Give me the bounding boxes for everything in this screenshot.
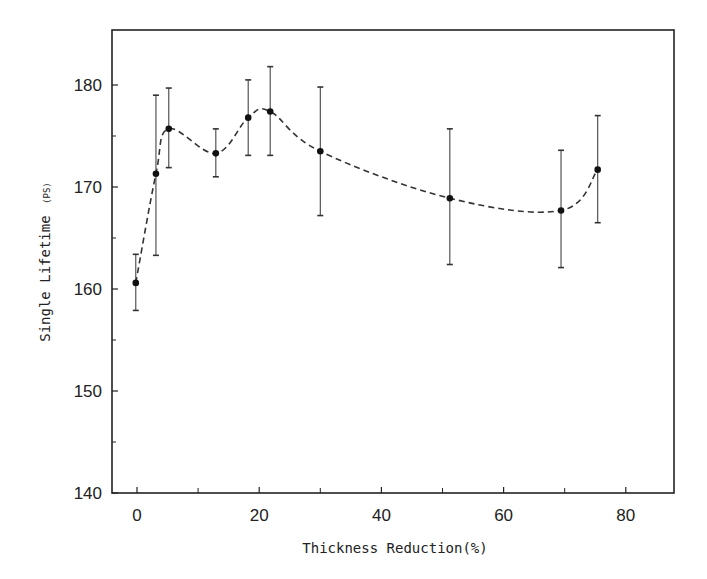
y-tick-label: 170 (74, 178, 102, 197)
y-axis-title: Single Lifetime (PS) (37, 182, 53, 342)
error-bars (133, 67, 601, 311)
chart: 140150160170180020406080 Thickness Reduc… (0, 0, 707, 579)
line-chart: 140150160170180020406080 Thickness Reduc… (0, 0, 707, 579)
x-tick-label: 60 (494, 506, 513, 525)
plot-frame (112, 30, 674, 493)
y-tick-label: 150 (74, 382, 102, 401)
data-point (267, 108, 274, 115)
y-axis-title-unit: (PS) (42, 182, 52, 204)
y-tick-label: 160 (74, 280, 102, 299)
data-points (132, 108, 601, 286)
data-point (165, 126, 172, 133)
y-tick-label: 180 (74, 76, 102, 95)
data-point (447, 195, 454, 202)
x-tick-label: 20 (250, 506, 269, 525)
y-axis-title-main: Single Lifetime (37, 215, 53, 341)
plot-border (112, 30, 674, 493)
data-point (558, 207, 565, 214)
tick-labels: 140150160170180020406080 (74, 76, 636, 525)
fit-curve (136, 109, 598, 283)
data-point (132, 280, 139, 287)
axis-ticks (112, 85, 626, 493)
x-tick-label: 0 (132, 506, 141, 525)
data-point (317, 148, 324, 155)
data-point (213, 150, 220, 157)
y-tick-label: 140 (74, 484, 102, 503)
data-point (153, 170, 160, 177)
x-tick-label: 80 (616, 506, 635, 525)
x-tick-label: 40 (372, 506, 391, 525)
data-point (245, 114, 252, 121)
data-point (594, 166, 601, 173)
x-axis-title: Thickness Reduction(%) (302, 540, 487, 556)
dashed-curve (136, 109, 598, 283)
